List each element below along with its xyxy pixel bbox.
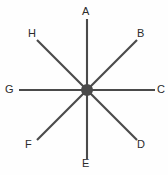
node-label-a: A	[82, 6, 89, 17]
spoke-line-b	[87, 40, 137, 90]
node-label-f: F	[25, 139, 32, 150]
node-label-d: D	[137, 139, 145, 150]
node-label-b: B	[137, 28, 144, 39]
center-hub	[81, 84, 93, 96]
spoke-diagram: ABCDEFGH	[0, 0, 168, 175]
spoke-line-h	[37, 40, 87, 90]
spoke-line-d	[87, 90, 137, 140]
spoke-line-f	[37, 90, 87, 140]
node-label-c: C	[157, 84, 165, 95]
node-label-h: H	[28, 28, 36, 39]
node-label-e: E	[82, 158, 89, 169]
node-label-g: G	[5, 84, 14, 95]
